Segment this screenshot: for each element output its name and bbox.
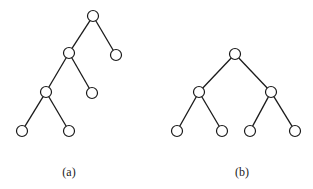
edge-b-l-lr (202, 97, 219, 127)
node-a-llr (64, 126, 75, 137)
edge-a-root-l (72, 21, 90, 49)
node-b-ll (172, 126, 183, 137)
node-a-lr (87, 88, 98, 99)
edge-b-r-rl (253, 97, 269, 126)
node-b-rr (290, 126, 301, 137)
edge-b-l-ll (180, 97, 197, 126)
tree-diagrams: (a) (b) (0, 0, 313, 189)
node-a-r (111, 50, 122, 61)
edge-a-ll-lll (25, 97, 43, 127)
node-b-rl (245, 126, 256, 137)
edge-b-r-rr (274, 97, 292, 127)
node-b-lr (217, 126, 228, 137)
node-a-ll (41, 87, 52, 98)
tree-b (172, 49, 301, 137)
edge-a-l-ll (49, 58, 66, 88)
tree-a (17, 11, 122, 137)
node-a-lll (17, 126, 28, 137)
edge-b-root-r (239, 58, 267, 88)
caption-b: (b) (235, 165, 249, 179)
node-a-root (88, 11, 99, 22)
node-b-r (266, 87, 277, 98)
node-a-l (64, 48, 75, 59)
edge-a-ll-llr (49, 97, 66, 127)
edge-b-root-l (203, 58, 231, 88)
node-b-root (230, 49, 241, 60)
edge-a-root-r (96, 21, 113, 51)
caption-a: (a) (62, 165, 75, 179)
edge-a-l-lr (72, 58, 90, 88)
node-b-l (194, 87, 205, 98)
